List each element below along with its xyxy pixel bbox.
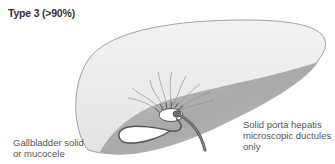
porta-label-line3: only [243,141,331,152]
porta-hepatis-label: Solid porta hepatis microscopic ductules… [243,119,331,152]
gallbladder-label: Gallbladder solid or mucocele [13,137,84,159]
gallbladder-label-line2: or mucocele [13,148,84,159]
porta-label-line1: Solid porta hepatis [243,119,331,130]
porta-label-line2: microscopic ductules [243,130,331,141]
gallbladder-label-line1: Gallbladder solid [13,137,84,148]
